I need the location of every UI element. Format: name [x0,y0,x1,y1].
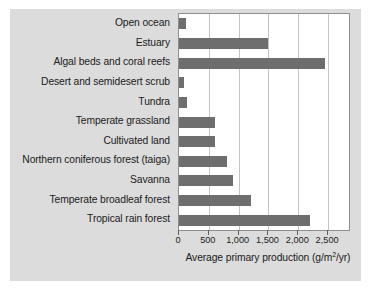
axis-tick-label: 1,500 [256,235,279,245]
bar-row [179,93,349,113]
bar-row [179,73,349,93]
bar [179,38,268,49]
category-label: Algal beds and coral reefs [10,52,175,72]
x-axis-title: Average primary production (g/m2/yr) [178,252,358,263]
bar [179,156,227,167]
axis-tick-label: 1,000 [226,235,249,245]
bar-row [179,112,349,132]
category-label: Northern coniferous forest (taiga) [10,150,175,170]
bar-row [179,210,349,230]
bar-row [179,53,349,73]
chart-figure-panel: Open oceanEstuaryAlgal beds and coral re… [10,9,361,281]
bar [179,77,184,88]
bar-row [179,34,349,54]
bar [179,175,233,186]
category-label: Temperate broadleaf forest [10,190,175,210]
category-label: Savanna [10,170,175,190]
axis-tick-label: 500 [200,235,215,245]
bar-row [179,151,349,171]
category-label: Tundra [10,92,175,112]
plot-area [178,13,350,231]
category-label: Temperate grassland [10,111,175,131]
bar-row [179,191,349,211]
bar [179,58,325,69]
axis-tick-label: 2,500 [316,235,339,245]
bars-layer [179,14,349,230]
axis-tick-label: 2,000 [286,235,309,245]
value-axis: 05001,0001,5002,0002,500 [178,230,350,237]
category-axis: Open oceanEstuaryAlgal beds and coral re… [10,13,175,229]
bar [179,195,251,206]
category-label: Open ocean [10,13,175,33]
category-label: Cultivated land [10,131,175,151]
axis-title-prefix: Average primary production (g/m [186,252,333,263]
bar [179,117,215,128]
bar-row [179,132,349,152]
category-label: Tropical rain forest [10,209,175,229]
bar [179,97,187,108]
bar [179,18,186,29]
bar [179,136,215,147]
bar [179,215,310,226]
bar-row [179,171,349,191]
bar-row [179,14,349,34]
category-label: Desert and semidesert scrub [10,72,175,92]
axis-title-suffix: /yr) [336,252,350,263]
axis-tick-label: 0 [175,235,180,245]
category-label: Estuary [10,33,175,53]
